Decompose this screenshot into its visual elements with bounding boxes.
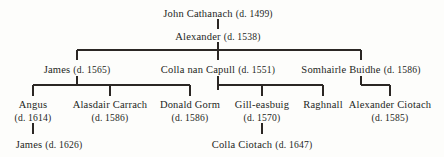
node-gill-easbuig: Gill-easbuig (d. 1570): [235, 99, 289, 124]
node-james: James(d. 1565): [44, 64, 111, 77]
node-raghnall: Raghnall: [303, 99, 343, 112]
node-john-cathanach: John Cathanach(d. 1499): [163, 8, 273, 21]
node-date: (d. 1565): [73, 64, 110, 75]
connector-lines: [0, 0, 444, 157]
node-colla-nan-capull: Colla nan Capull(d. 1551): [161, 64, 275, 77]
node-date: (d. 1570): [235, 112, 289, 125]
node-name: Colla Ciotach: [212, 139, 273, 150]
node-date: (d. 1538): [224, 31, 261, 42]
node-date: (d. 1614): [15, 112, 52, 125]
node-date: (d. 1647): [275, 139, 312, 150]
node-alexander: Alexander(d. 1538): [175, 31, 261, 44]
node-colla-ciotach: Colla Ciotach(d. 1647): [212, 139, 313, 152]
node-name: Alexander: [175, 31, 221, 42]
node-date: (d. 1586): [160, 112, 220, 125]
node-name: Gill-easbuig: [235, 99, 289, 112]
node-date: (d. 1551): [238, 64, 275, 75]
node-name: James: [44, 64, 71, 75]
node-name: Somhairle Buidhe: [301, 64, 380, 75]
node-date: (d. 1586): [384, 64, 421, 75]
node-alasdair-carrach: Alasdair Carrach (d. 1586): [73, 99, 148, 124]
node-date: (d. 1499): [236, 8, 273, 19]
node-date: (d. 1585): [349, 112, 431, 125]
node-name: Alexander Ciotach: [349, 99, 431, 112]
node-name: Raghnall: [303, 99, 343, 112]
node-name: Donald Gorm: [160, 99, 220, 112]
node-donald-gorm: Donald Gorm (d. 1586): [160, 99, 220, 124]
node-date: (d. 1586): [73, 112, 148, 125]
node-name: James: [16, 139, 43, 150]
node-name: Colla nan Capull: [161, 64, 235, 75]
family-tree-diagram: John Cathanach(d. 1499) Alexander(d. 153…: [0, 0, 444, 157]
node-angus: Angus (d. 1614): [15, 99, 52, 124]
node-james-1626: James(d. 1626): [16, 139, 83, 152]
node-somhairle-buidhe: Somhairle Buidhe(d. 1586): [301, 64, 420, 77]
node-alexander-ciotach: Alexander Ciotach (d. 1585): [349, 99, 431, 124]
node-date: (d. 1626): [45, 139, 82, 150]
node-name: John Cathanach: [163, 8, 233, 19]
node-name: Alasdair Carrach: [73, 99, 148, 112]
node-name: Angus: [15, 99, 52, 112]
